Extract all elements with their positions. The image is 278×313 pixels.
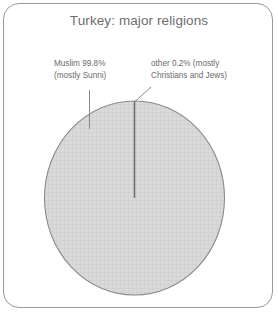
callout-muslim-line2: (mostly Sunni) bbox=[54, 70, 106, 82]
callout-other-line1: other 0.2% (mostly bbox=[151, 58, 227, 70]
pie-chart-graphic bbox=[0, 0, 278, 313]
callout-label-muslim: Muslim 99.8% (mostly Sunni) bbox=[54, 58, 106, 81]
callout-label-other: other 0.2% (mostly Christians and Jews) bbox=[151, 58, 227, 81]
leader-line-other bbox=[135, 87, 152, 102]
chart-screenshot: Turkey: major religions Muslim 99.8% (mo… bbox=[0, 0, 278, 313]
callout-other-line2: Christians and Jews) bbox=[151, 70, 227, 82]
callout-muslim-line1: Muslim 99.8% bbox=[54, 58, 106, 70]
